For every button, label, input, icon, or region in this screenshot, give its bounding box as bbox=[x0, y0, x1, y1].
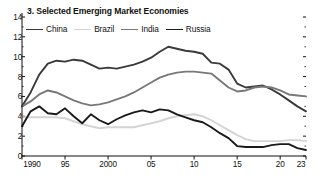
chart-plot-area bbox=[0, 0, 318, 175]
series-line-china bbox=[22, 47, 306, 112]
series-line-india bbox=[22, 72, 306, 107]
series-line-brazil bbox=[22, 114, 306, 141]
chart-container: 3. Selected Emerging Market Economies Ch… bbox=[0, 0, 318, 175]
series-line-russia bbox=[22, 106, 306, 150]
